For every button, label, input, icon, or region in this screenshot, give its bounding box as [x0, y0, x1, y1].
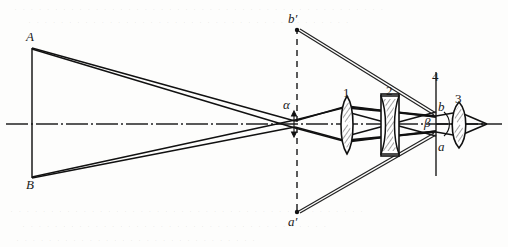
- label-plane-4: 4: [432, 70, 439, 83]
- oblique-beam-from-a-prime: [297, 133, 436, 213]
- bleed-text-bottom-3: · · · · · · · · · · · · · · · · · · · · …: [16, 236, 256, 245]
- oblique-beam-from-b-prime: [297, 29, 436, 115]
- label-image-bottom-a: a: [438, 140, 445, 153]
- optical-ray-diagram: · · · · · · · · · · · · · · · · · · · · …: [0, 0, 508, 247]
- lens-3-biconvex: [452, 102, 466, 148]
- label-lens-2: 2: [386, 84, 393, 97]
- point-marker-b-prime: [295, 28, 299, 32]
- label-angle-beta: β: [424, 116, 430, 129]
- ray-bundle-from-A: [32, 48, 295, 128]
- label-intermediate-top-b-prime: b′: [288, 12, 297, 25]
- label-lens-3: 3: [455, 92, 462, 105]
- label-image-top-b: b: [438, 100, 445, 113]
- lens-1-biconvex: [341, 96, 353, 154]
- bleed-text-bottom-2: · · · · · · · · · · · · · · · · · · · · …: [22, 222, 328, 231]
- label-object-bottom-B: B: [26, 178, 34, 191]
- ray-bundle-from-B: [32, 120, 295, 178]
- label-object-top-A: A: [26, 30, 34, 43]
- label-lens-1: 1: [343, 86, 350, 99]
- label-angle-alpha: α: [283, 98, 290, 111]
- lens-2-biconcave-mounted: [381, 94, 399, 156]
- bleed-text-bottom-1: · · · · · · · · · · · · · · · · · · · · …: [10, 207, 364, 216]
